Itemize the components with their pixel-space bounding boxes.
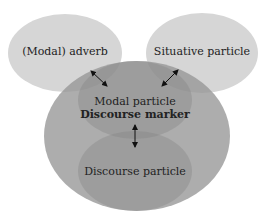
arrow-situative-modal (162, 70, 178, 86)
arrow-adverb-modal (91, 71, 107, 86)
arrows (0, 0, 271, 216)
